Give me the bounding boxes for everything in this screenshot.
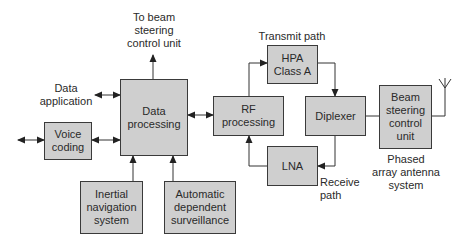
to-beam-steering-label: To beam steering control unit — [108, 11, 200, 50]
lna-block: LNA — [267, 146, 318, 186]
transmit-path-label: Transmit path — [252, 30, 332, 43]
receive-path-label: Receive path — [320, 176, 368, 202]
voice-coding-block: Voice coding — [44, 122, 92, 160]
hpa-block: HPA Class A — [267, 45, 318, 84]
antenna-icon — [439, 78, 451, 88]
rf-to-hpa-arrow — [249, 63, 267, 96]
rf-processing-block: RF processing — [213, 96, 284, 136]
data-application-label: Data application — [36, 82, 96, 108]
satellite-communication-block-diagram: Voice coding Data processing Inertial na… — [0, 0, 474, 246]
diplexer-block: Diplexer — [305, 96, 366, 136]
ads-block: Automatic dependent surveillance — [164, 181, 236, 234]
diplexer-to-lna-arrow — [318, 135, 335, 166]
data-processing-block: Data processing — [120, 79, 188, 156]
phased-array-label: Phased array antenna system — [364, 153, 448, 192]
lna-to-rf-arrow — [249, 136, 267, 166]
inertial-navigation-block: Inertial navigation system — [80, 181, 143, 234]
beam-steering-block: Beam steering control unit — [379, 85, 432, 149]
hpa-to-diplexer-arrow — [317, 63, 335, 96]
beam-antenna-line — [431, 88, 445, 116]
